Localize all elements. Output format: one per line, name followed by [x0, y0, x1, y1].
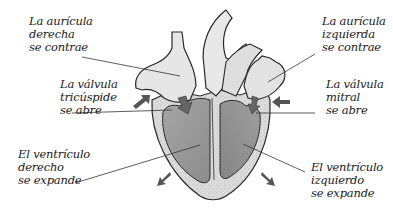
expand-arrow-left	[157, 172, 171, 186]
label-right-atrium: La aurícula derecha se contrae	[29, 15, 93, 54]
inflow-arrow-left	[133, 95, 150, 109]
inflow-arrow-right	[272, 96, 290, 108]
label-left-ventricle: El ventrículo izquierdo se expande	[311, 161, 383, 200]
right-atrium	[136, 32, 196, 102]
label-left-atrium: La aurícula izquierda se contrae	[322, 15, 386, 54]
label-tricuspid-valve: La válvula tricúspide se abre	[60, 78, 118, 117]
expand-arrow-right	[261, 172, 275, 186]
label-mitral-valve: La válvula mitral se abre	[326, 78, 384, 117]
label-right-ventricle: El ventrículo derecho se expande	[18, 148, 90, 187]
heart-diagram: La aurícula derecha se contrae La aurícu…	[0, 0, 393, 211]
